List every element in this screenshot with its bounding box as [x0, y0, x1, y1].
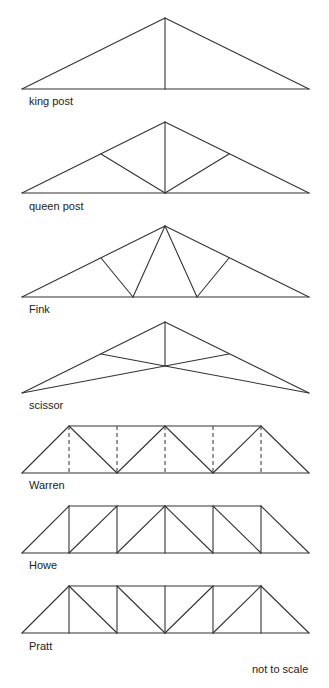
king-post-truss [22, 18, 309, 89]
label-pratt: Pratt [29, 640, 52, 652]
label-scissor: scissor [29, 399, 63, 411]
pratt-truss [22, 586, 309, 633]
queen-post-truss [22, 122, 309, 193]
label-king-post: king post [29, 95, 73, 107]
label-howe: Howe [29, 559, 57, 571]
not-to-scale-note: not to scale [252, 663, 308, 675]
fink-truss [22, 226, 309, 297]
label-queen-post: queen post [29, 200, 83, 212]
scissor-truss [22, 322, 309, 393]
label-fink: Fink [29, 303, 50, 315]
warren-truss [22, 426, 309, 473]
howe-truss [22, 506, 309, 553]
label-warren: Warren [29, 479, 65, 491]
